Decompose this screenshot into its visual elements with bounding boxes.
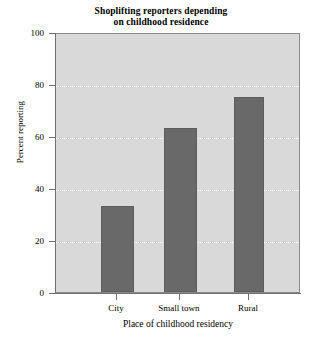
x-tick-label-small-town: Small town (158, 303, 199, 313)
gridline-80 (56, 86, 299, 87)
y-tick-mark-60 (49, 137, 55, 138)
x-tick-mark-small-town (179, 294, 180, 300)
chart-title: Shoplifting reporters depending on child… (0, 6, 322, 28)
x-tick-mark-city (116, 294, 117, 300)
y-tick-mark-40 (49, 189, 55, 190)
y-axis-title: Percent reporting (15, 72, 25, 192)
bar-city[interactable] (101, 206, 134, 292)
plot-area (55, 33, 300, 293)
x-tick-mark-rural (248, 294, 249, 300)
x-tick-label-city: City (108, 303, 124, 313)
y-tick-label-20: 20 (14, 237, 44, 246)
x-axis-line (55, 293, 301, 294)
x-tick-label-rural: Rural (238, 303, 258, 313)
y-tick-mark-80 (49, 85, 55, 86)
bar-rural[interactable] (234, 97, 264, 292)
chart-title-line-1: Shoplifting reporters depending (0, 6, 322, 17)
chart-title-line-2: on childhood residence (0, 17, 322, 28)
y-tick-mark-20 (49, 241, 55, 242)
y-tick-label-0: 0 (14, 289, 44, 298)
bar-chart-figure: Shoplifting reporters depending on child… (0, 0, 322, 339)
y-tick-label-100: 100 (14, 29, 44, 38)
y-axis-line (55, 33, 56, 294)
y-tick-mark-100 (49, 33, 55, 34)
y-tick-mark-0 (49, 293, 55, 294)
x-axis-title: Place of childhood residency (55, 319, 301, 330)
bar-small-town[interactable] (164, 128, 197, 292)
